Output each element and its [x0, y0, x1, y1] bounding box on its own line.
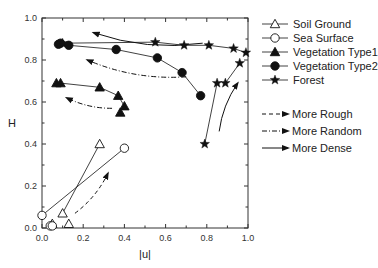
- legend-item-vegetation-type1: Vegetation Type1: [262, 46, 378, 58]
- x-tick-label: 0.0: [36, 233, 49, 243]
- star-marker: [235, 58, 245, 67]
- legend-arrow-label: More Random: [292, 125, 362, 137]
- series-vegetation-type1: [52, 78, 129, 116]
- circle-filled-marker: [178, 68, 186, 76]
- legend-arrow-label: More Rough: [292, 108, 353, 120]
- series-sea-surface: [38, 144, 129, 230]
- series-line: [205, 83, 217, 144]
- star-marker: [229, 43, 239, 52]
- data-series: [38, 37, 251, 230]
- y-tick-label: 1.0: [24, 13, 37, 23]
- triangle-filled-marker: [270, 47, 279, 55]
- legend-label: Sea Surface: [293, 32, 354, 44]
- x-axis-label: |u|: [139, 248, 151, 260]
- legend-label: Vegetation Type1: [293, 46, 378, 58]
- chart-canvas: 0.00.20.40.60.81.00.00.20.40.60.81.0|u|H…: [0, 0, 378, 268]
- star-marker: [270, 75, 280, 84]
- legend-item-soil-ground: Soil Ground: [262, 18, 351, 30]
- legend-item-sea-surface: Sea Surface: [262, 32, 354, 44]
- trend-arrow-more-random: [67, 98, 112, 109]
- circle-open-marker: [271, 34, 279, 42]
- legend-arrow-more-dense: More Dense: [262, 142, 352, 154]
- star-marker: [241, 48, 251, 57]
- circle-filled-marker: [153, 54, 161, 62]
- trend-arrow-more-random: [87, 60, 186, 77]
- triangle-open-marker: [64, 219, 73, 227]
- trend-arrows: [67, 33, 238, 214]
- series-forest: [58, 37, 251, 148]
- legend-arrow-label: More Dense: [292, 142, 352, 154]
- triangle-filled-marker: [114, 91, 123, 99]
- legend-label: Vegetation Type2: [293, 60, 378, 72]
- y-tick-label: 0.6: [24, 97, 37, 107]
- circle-open-marker: [38, 211, 46, 219]
- series-soil-ground: [48, 139, 105, 227]
- legend: Soil GroundSea SurfaceVegetation Type1Ve…: [262, 18, 378, 154]
- plot-axes: 0.00.20.40.60.81.00.00.20.40.60.81.0|u|H: [8, 13, 254, 260]
- trend-arrow-more-dense: [219, 83, 238, 131]
- legend-label: Forest: [293, 74, 324, 86]
- triangle-open-marker: [270, 19, 279, 27]
- y-tick-label: 0.0: [24, 223, 37, 233]
- star-marker: [212, 78, 222, 87]
- series-line: [63, 144, 100, 213]
- series-line: [42, 148, 124, 215]
- legend-arrow-more-rough: More Rough: [262, 108, 353, 120]
- circle-filled-marker: [196, 92, 204, 100]
- circle-open-marker: [120, 144, 128, 152]
- plot-frame: [42, 18, 248, 228]
- series-line: [56, 83, 124, 106]
- star-marker: [204, 40, 214, 49]
- legend-label: Soil Ground: [293, 18, 351, 30]
- star-marker: [221, 78, 231, 87]
- circle-open-marker: [48, 222, 56, 230]
- x-tick-label: 0.4: [118, 233, 131, 243]
- y-tick-label: 0.2: [24, 181, 37, 191]
- x-tick-label: 1.0: [242, 233, 255, 243]
- triangle-open-marker: [58, 209, 67, 217]
- legend-item-forest: Forest: [262, 74, 324, 86]
- x-tick-label: 0.2: [77, 233, 90, 243]
- x-tick-label: 0.8: [201, 233, 214, 243]
- trend-arrow-more-rough: [75, 173, 108, 213]
- x-tick-label: 0.6: [159, 233, 172, 243]
- legend-arrow-more-random: More Random: [262, 125, 362, 137]
- star-marker: [179, 40, 189, 49]
- triangle-open-marker: [95, 139, 104, 147]
- circle-filled-marker: [112, 45, 120, 53]
- y-axis-label: H: [8, 117, 16, 129]
- star-marker: [200, 139, 210, 148]
- y-tick-label: 0.4: [24, 139, 37, 149]
- legend-item-vegetation-type2: Vegetation Type2: [262, 60, 378, 72]
- y-tick-label: 0.8: [24, 55, 37, 65]
- circle-filled-marker: [271, 62, 279, 70]
